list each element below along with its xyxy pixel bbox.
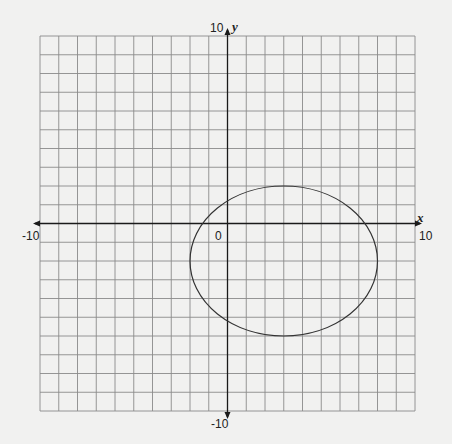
x-min-label: -10 [22, 229, 40, 243]
x-max-label: 10 [419, 229, 433, 243]
y-axis-name: y [230, 19, 238, 34]
x-axis-left-arrow [33, 221, 40, 227]
coordinate-plane: -10 10 10 -10 0 x y [0, 0, 452, 444]
axes [33, 28, 422, 419]
x-axis-name: x [416, 210, 424, 225]
origin-label: 0 [215, 229, 222, 243]
y-min-label: -10 [211, 417, 229, 431]
y-axis-top-arrow [225, 28, 231, 35]
y-max-label: 10 [210, 21, 224, 35]
